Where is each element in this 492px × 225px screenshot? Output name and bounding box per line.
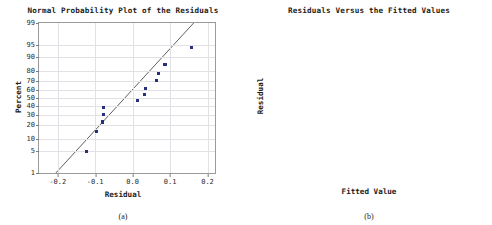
gridline-horizontal bbox=[39, 115, 215, 116]
gridline-horizontal bbox=[39, 57, 215, 58]
gridline-horizontal bbox=[39, 106, 215, 107]
panel-normal-probability-plot: Normal Probability Plot of the Residuals… bbox=[0, 0, 246, 225]
data-point bbox=[95, 130, 98, 133]
x-axis-title-residual: Residual bbox=[0, 190, 246, 199]
y-axis-tick-label: 70 bbox=[27, 77, 35, 85]
panel-caption-b: (b) bbox=[246, 212, 492, 221]
data-point bbox=[164, 63, 167, 66]
panel-caption-a: (a) bbox=[0, 212, 246, 221]
gridline-vertical bbox=[58, 23, 59, 173]
x-axis-tick-label: 0.2 bbox=[201, 178, 214, 186]
data-point bbox=[190, 46, 193, 49]
data-point bbox=[85, 150, 88, 153]
data-point bbox=[155, 79, 158, 82]
gridline-horizontal bbox=[39, 81, 215, 82]
gridline-vertical bbox=[170, 23, 171, 173]
panel-residuals-vs-fitted: Residuals Versus the Fitted Values 0.150… bbox=[246, 0, 492, 225]
y-axis-tick-label: 60 bbox=[27, 86, 35, 94]
gridline-vertical bbox=[208, 23, 209, 173]
gridline-horizontal bbox=[39, 151, 215, 152]
data-point bbox=[102, 113, 105, 116]
x-axis-tick-label: -0.1 bbox=[87, 178, 104, 186]
data-point bbox=[143, 93, 146, 96]
plot-area-normal-probability: 151020304050607080909599-0.2-0.10.00.10.… bbox=[38, 22, 216, 174]
y-axis-tick-label: 40 bbox=[27, 102, 35, 110]
gridline-horizontal bbox=[39, 45, 215, 46]
x-axis-tick-label: -0.2 bbox=[49, 178, 66, 186]
y-axis-title-residual: Residual bbox=[256, 77, 265, 114]
chart-title-a: Normal Probability Plot of the Residuals bbox=[0, 6, 246, 15]
y-axis-tick-label: 20 bbox=[27, 121, 35, 129]
y-axis-tick-label: 99 bbox=[27, 19, 35, 27]
y-axis-tick-label: 10 bbox=[27, 135, 35, 143]
data-point bbox=[101, 120, 104, 123]
data-point bbox=[102, 106, 105, 109]
chart-title-b: Residuals Versus the Fitted Values bbox=[246, 6, 492, 15]
data-point bbox=[157, 72, 160, 75]
y-axis-tick-label: 95 bbox=[27, 41, 35, 49]
y-axis-tick-label: 50 bbox=[27, 94, 35, 102]
x-axis-tick-label: 0.1 bbox=[164, 178, 177, 186]
x-axis-title-fitted-value: Fitted Value bbox=[246, 187, 492, 196]
residual-diagnostics-figure: Normal Probability Plot of the Residuals… bbox=[0, 0, 492, 225]
y-axis-tick-label: 5 bbox=[31, 147, 35, 155]
gridline-vertical bbox=[95, 23, 96, 173]
gridline-horizontal bbox=[39, 125, 215, 126]
gridline-horizontal bbox=[39, 71, 215, 72]
x-axis-tick-label: 0.0 bbox=[126, 178, 139, 186]
gridline-vertical bbox=[133, 23, 134, 173]
data-point bbox=[144, 87, 147, 90]
y-axis-title-percent: Percent bbox=[14, 81, 23, 113]
data-point bbox=[136, 99, 139, 102]
gridline-horizontal bbox=[39, 98, 215, 99]
y-axis-tick-label: 1 bbox=[31, 169, 35, 177]
gridline-horizontal bbox=[39, 90, 215, 91]
y-axis-tick-label: 30 bbox=[27, 111, 35, 119]
y-axis-tick-label: 90 bbox=[27, 53, 35, 61]
gridline-horizontal bbox=[39, 139, 215, 140]
y-axis-tick-label: 80 bbox=[27, 67, 35, 75]
